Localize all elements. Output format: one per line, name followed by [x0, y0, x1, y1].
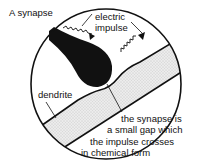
leader-line: [82, 14, 92, 26]
leader-line: [131, 22, 142, 33]
synapse-diagram: A synapse electric impulse dendrite the …: [0, 0, 199, 168]
diagram-title: A synapse: [9, 7, 53, 18]
impulse-arrow-icon: [121, 32, 145, 52]
leader-line: [46, 102, 56, 118]
axon-terminal: [49, 27, 112, 87]
label-gap-2: a small gap which: [107, 124, 183, 135]
label-electric: electric: [95, 11, 125, 22]
label-impulse: impulse: [95, 22, 128, 33]
label-gap-1: the synapse is: [121, 113, 182, 124]
label-dendrite: dendrite: [38, 89, 72, 100]
label-gap-4: in chemical form: [81, 147, 150, 158]
label-gap-3: the impulse crosses: [90, 136, 174, 147]
